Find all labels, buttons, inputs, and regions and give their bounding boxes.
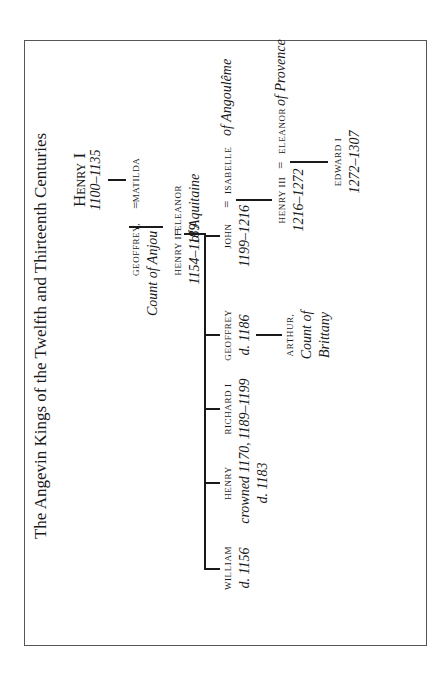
henry-iii-name: Henry III <box>278 177 287 224</box>
henry-ii-name: Henry II <box>174 232 183 275</box>
line-henry-ii-down <box>184 233 206 235</box>
family-tree: The Angevin Kings of the Twelfth and Thi… <box>24 40 427 646</box>
geoffrey-name: Geoffrey <box>224 309 233 360</box>
line-richard-drop <box>204 408 220 410</box>
line-geoffrey-down <box>256 334 282 336</box>
marriage-symbol: = <box>220 201 233 208</box>
eleanor-provence-title: of Provence <box>274 39 288 106</box>
line-william-drop <box>204 568 220 570</box>
edward-i-name: Edward I <box>334 138 343 187</box>
marriage-symbol: = <box>274 162 287 169</box>
john-dates: 1199–1216 <box>238 205 252 267</box>
line-children-bar <box>204 235 206 570</box>
henry-i-dates: 1100–1135 <box>89 150 103 211</box>
diagram-title: The Angevin Kings of the Twelfth and Thi… <box>32 133 49 539</box>
matilda-name: Matilda <box>132 158 141 203</box>
henry-young-dates-1: crowned 1170, <box>238 442 252 524</box>
line-john-drop <box>204 235 220 237</box>
geoffrey-dates: d. 1186 <box>238 315 252 356</box>
line-matilda-down <box>129 226 163 228</box>
line-henry-i-down <box>108 179 126 181</box>
eleanor-aquitaine-name: Eleanor <box>174 185 183 231</box>
isabelle-name: Isabelle <box>224 147 233 194</box>
william-name: William <box>224 546 233 590</box>
arthur-title-1: Count of <box>300 311 314 360</box>
edward-i-dates: 1272–1307 <box>348 131 362 194</box>
isabelle-title: of Angoulême <box>220 59 234 136</box>
richard-i-dates: 1189–1199 <box>238 379 252 440</box>
arthur-name: Arthur, <box>286 314 295 357</box>
henry-iii-dates: 1216–1272 <box>292 169 306 232</box>
henry-i-name: Henry I <box>71 153 88 207</box>
line-john-down <box>236 199 272 201</box>
henry-young-dates-2: d. 1183 <box>256 463 270 504</box>
william-dates: d. 1156 <box>238 548 252 589</box>
eleanor-provence-name: Eleanor <box>278 108 287 154</box>
marriage-symbol: = <box>129 202 142 209</box>
line-geoffrey-drop <box>204 334 220 336</box>
line-henry-iii-down <box>290 161 328 163</box>
geoffrey-anjou-title: Count of Anjou <box>146 231 160 316</box>
arthur-title-2: Brittany <box>318 312 332 358</box>
geoffrey-anjou-name: Geoffrey, <box>132 223 141 276</box>
john-name: John <box>224 223 233 248</box>
henry-young-name: Henry <box>224 466 233 500</box>
line-henry-drop <box>204 482 220 484</box>
richard-i-name: Richard I <box>224 383 233 434</box>
